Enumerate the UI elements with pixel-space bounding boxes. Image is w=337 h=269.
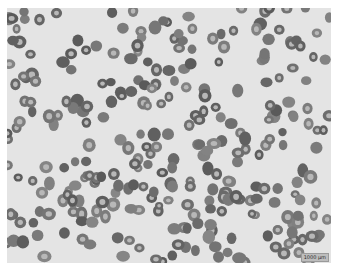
cell-center-pallor [111,171,116,177]
cell-center-pallor [131,9,136,14]
red-blood-cell [227,233,237,245]
cell-center-pallor [233,194,239,200]
cell-center-pallor [18,220,23,225]
red-blood-cell [320,54,331,64]
cell-center-pallor [267,137,272,142]
red-blood-cell [97,172,107,183]
cell-center-pallor [167,95,171,100]
cell-center-pallor [254,26,259,32]
cell-center-pallor [315,128,319,132]
cell-center-pallor [100,81,105,85]
cell-center-pallor [188,184,193,189]
cell-center-pallor [126,145,131,151]
red-blood-cell [232,252,246,263]
cell-center-pallor [325,217,330,222]
cell-center-pallor [197,118,202,123]
cell-center-pallor [146,104,150,108]
red-blood-cell [17,235,29,248]
cell-center-pallor [176,46,181,50]
red-blood-cell [191,245,200,256]
red-blood-cell [84,240,97,250]
cell-center-pallor [94,208,99,214]
cell-center-pallor [187,123,192,128]
cell-center-pallor [257,153,261,158]
red-blood-cell [273,183,283,194]
red-blood-cell [66,65,77,74]
red-blood-cell [81,157,91,166]
red-blood-cell [69,181,82,191]
cell-center-pallor [185,202,191,207]
cell-center-pallor [21,74,26,78]
cell-center-pallor [103,214,108,220]
cell-center-pallor [235,150,241,155]
cell-center-pallor [46,113,52,119]
red-blood-cell [106,78,116,86]
cell-center-pallor [70,198,75,204]
cell-center-pallor [148,152,153,157]
red-blood-cell [269,197,281,208]
cell-center-pallor [285,214,291,220]
cell-center-pallor [244,147,248,152]
cell-center-pallor [16,176,20,180]
red-blood-cell [106,96,117,108]
red-blood-cell [209,241,222,252]
red-blood-cell [232,84,243,98]
red-blood-cell [310,142,322,154]
cell-center-pallor [71,210,76,215]
red-blood-cell [167,181,178,193]
red-blood-cell [168,251,178,261]
red-blood-cell [301,8,310,12]
red-blood-cell [293,211,304,221]
red-blood-cell [192,218,203,229]
red-blood-cell [148,128,161,142]
red-blood-cell [262,34,274,46]
red-blood-cell [29,218,39,228]
micrograph: 1000 μm [7,8,331,263]
cell-center-pallor [175,242,181,247]
red-blood-cell [204,196,214,206]
red-blood-cell [188,45,197,54]
cell-center-pallor [315,31,320,35]
red-blood-cell [163,65,176,76]
cell-center-pallor [221,44,227,50]
cell-center-pallor [293,192,297,196]
cell-center-pallor [275,228,280,232]
red-blood-cell [124,53,138,64]
red-blood-cell [261,77,273,87]
red-blood-cell [167,162,177,174]
cell-center-pallor [311,55,315,60]
cell-center-pallor [9,16,15,21]
red-blood-cell [59,227,70,238]
blood-cells-layer [7,8,331,263]
red-blood-cell [98,112,110,122]
red-blood-cell [263,230,273,241]
red-blood-cell [232,157,243,168]
cell-center-pallor [79,211,84,218]
cell-center-pallor [137,246,142,250]
cell-center-pallor [87,173,92,178]
red-blood-cell [287,226,298,238]
red-blood-cell [325,12,331,22]
cell-center-pallor [202,109,206,114]
red-blood-cell [289,111,299,122]
cell-center-pallor [99,199,105,205]
cell-center-pallor [33,79,38,84]
cell-center-pallor [160,171,165,175]
red-blood-cell [239,131,251,145]
cell-center-pallor [262,186,268,191]
red-blood-cell [71,157,79,166]
red-blood-cell [225,118,238,129]
red-blood-cell [174,29,184,38]
cell-center-pallor [220,209,225,214]
cell-center-pallor [250,212,254,216]
red-blood-cell [19,8,28,16]
cell-center-pallor [144,145,149,149]
red-blood-cell [295,195,306,206]
red-blood-cell [116,251,130,262]
red-blood-cell [125,86,137,97]
red-blood-cell [204,219,216,230]
red-blood-cell [117,23,129,34]
cell-center-pallor [281,251,287,257]
cell-center-pallor [56,113,60,118]
cell-center-pallor [111,51,116,56]
